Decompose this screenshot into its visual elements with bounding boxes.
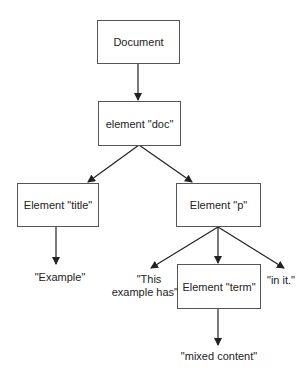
text-node-this-example-has-line2: example has" [110, 286, 178, 299]
text-node-mixed-content-label: "mixed content" [181, 350, 257, 362]
text-node-in-it: "in it." [264, 274, 298, 287]
node-element-title-label: Element "title" [24, 199, 92, 211]
node-document-label: Document [113, 36, 163, 48]
edge-p-in-it [218, 227, 284, 268]
node-element-title: Element "title" [17, 183, 99, 227]
edge-doc-title [88, 145, 139, 182]
node-element-doc-label: element "doc" [106, 118, 174, 130]
node-element-term: Element "term" [177, 264, 261, 309]
edge-p-this-example-has [151, 227, 218, 268]
text-node-example-label: "Example" [35, 271, 86, 283]
text-node-mixed-content: "mixed content" [178, 350, 260, 363]
edge-doc-p [139, 145, 192, 182]
node-element-term-label: Element "term" [182, 281, 255, 293]
text-node-this-example-has: "This example has" [110, 273, 178, 299]
text-node-example: "Example" [20, 271, 100, 284]
node-document: Document [97, 20, 180, 64]
text-node-in-it-label: "in it." [267, 274, 295, 286]
node-element-doc: element "doc" [98, 101, 181, 146]
node-element-p-label: Element "p" [190, 199, 247, 211]
node-element-p: Element "p" [176, 183, 261, 227]
text-node-this-example-has-line1: "This [110, 273, 178, 286]
